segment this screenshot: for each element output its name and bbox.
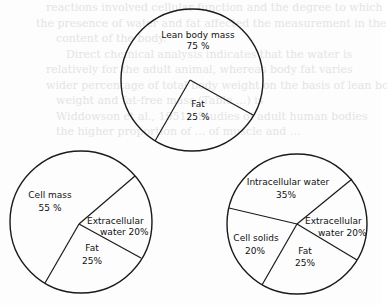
- slice-label-intracellular-water: Intracellular water: [247, 177, 330, 187]
- slice-value-cell-solids: 20%: [245, 246, 265, 256]
- slice-value-fat: 25%: [295, 258, 315, 268]
- slice-label-fat: Fat: [191, 99, 205, 109]
- slice-label-fat: Fat: [298, 246, 312, 256]
- pie-chart-top: Lean body mass 75 % Fat 25 %: [121, 9, 263, 151]
- slice-value-lean-body-mass: 75 %: [187, 41, 210, 51]
- slice-value-extracellular-water: water 20%: [318, 228, 367, 238]
- pie-chart-bottom-left: Cell mass 55 % Extracellular water 20% F…: [10, 151, 152, 293]
- slice-label-cell-mass: Cell mass: [28, 190, 72, 200]
- pie-chart-bottom-right: Intracellular water 35% Extracellular wa…: [227, 154, 367, 294]
- slice-value-fat: 25%: [82, 256, 102, 266]
- pie-top-divider-right: [190, 80, 253, 115]
- slice-label-extracellular-water: Extracellular: [305, 216, 362, 226]
- slice-value-extracellular-water: water 20%: [100, 227, 149, 237]
- slice-label-lean-body-mass: Lean body mass: [161, 30, 235, 40]
- slice-value-fat: 25 %: [187, 112, 210, 122]
- slice-label-cell-solids: Cell solids: [233, 233, 279, 243]
- slice-label-extracellular-water: Extracellular: [87, 216, 144, 226]
- pie-left-divider-bottom: [45, 224, 79, 283]
- slice-value-cell-mass: 55 %: [39, 203, 62, 213]
- pie-right-divider-left: [229, 208, 297, 224]
- slice-label-fat: Fat: [85, 243, 99, 253]
- pie-top-divider-left: [155, 80, 190, 141]
- slice-value-intracellular-water: 35%: [276, 190, 296, 200]
